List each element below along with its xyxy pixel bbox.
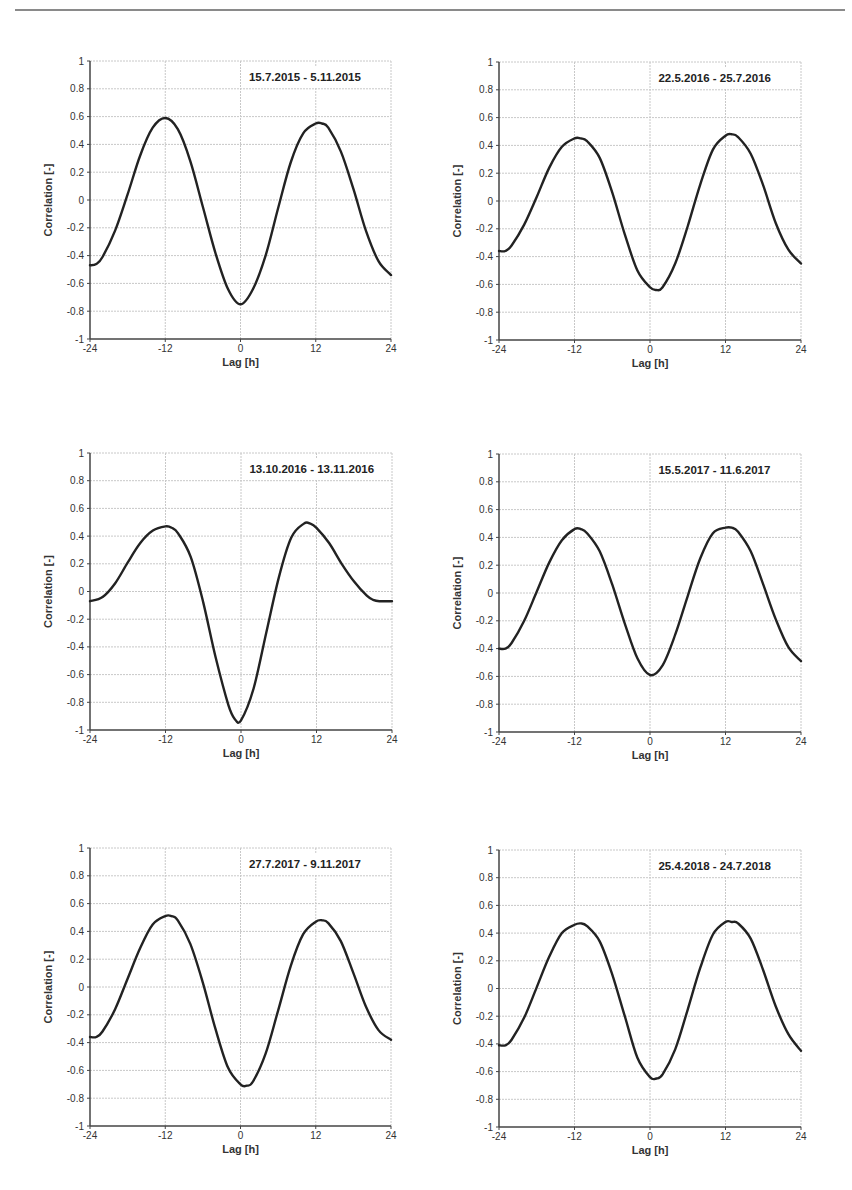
chart-panel-6: 10.80.60.40.20-0.2-0.4-0.6-0.8-1-24-1201… <box>451 845 807 1157</box>
chart-title: 15.7.2015 - 5.11.2015 <box>249 71 362 83</box>
figure-canvas: 10.80.60.40.20-0.2-0.4-0.6-0.8-1-24-1201… <box>0 0 852 1190</box>
y-axis-label: Correlation [-] <box>451 952 463 1025</box>
chart-panel-5: 10.80.60.40.20-0.2-0.4-0.6-0.8-1-24-1201… <box>42 843 397 1156</box>
chart-title: 13.10.2016 - 13.11.2016 <box>249 463 374 475</box>
y-tick-label: 0.2 <box>479 955 493 966</box>
x-tick-label: 24 <box>795 1131 807 1142</box>
y-tick-label: -0.6 <box>67 278 85 289</box>
chart-title: 25.4.2018 - 24.7.2018 <box>658 860 771 872</box>
y-tick-label: 0.2 <box>70 558 84 569</box>
y-tick-label: 0.4 <box>479 140 493 151</box>
x-tick-label: 0 <box>238 1130 244 1141</box>
y-tick-label: 0.2 <box>70 954 84 965</box>
y-tick-label: 0 <box>78 982 84 993</box>
x-tick-label: 0 <box>238 734 244 745</box>
gridlines <box>90 61 391 339</box>
x-tick-label: 24 <box>386 734 398 745</box>
y-tick-label: -0.6 <box>476 1066 494 1077</box>
x-axis-label: Lag [h] <box>632 357 669 369</box>
x-tick-label: 12 <box>311 734 323 745</box>
y-tick-label: 0.4 <box>70 139 84 150</box>
x-tick-label: -24 <box>492 344 507 355</box>
x-tick-label: 24 <box>385 343 397 354</box>
y-tick-label: -0.2 <box>67 222 85 233</box>
y-tick-label: 0.6 <box>70 503 84 514</box>
y-tick-label: 0 <box>487 196 493 207</box>
x-tick-label: 12 <box>310 1130 322 1141</box>
y-tick-label: 0.8 <box>479 476 493 487</box>
y-tick-label: 0.6 <box>479 112 493 123</box>
y-tick-label: 0.8 <box>479 872 493 883</box>
y-tick-label: 0.2 <box>70 167 84 178</box>
y-tick-label: -0.8 <box>476 1094 494 1105</box>
y-tick-label: 0 <box>78 195 84 206</box>
y-tick-label: 1 <box>487 449 493 460</box>
y-axis-label: Correlation [-] <box>451 164 463 237</box>
x-tick-label: 0 <box>647 736 653 747</box>
x-tick-label: -24 <box>492 1131 507 1142</box>
y-tick-label: 0.2 <box>479 560 493 571</box>
y-tick-label: -0.4 <box>67 1037 85 1048</box>
y-tick-label: -0.8 <box>476 699 494 710</box>
y-axis-label: Correlation [-] <box>42 950 54 1023</box>
y-axis-label: Correlation [-] <box>42 163 54 236</box>
chart-panel-1: 10.80.60.40.20-0.2-0.4-0.6-0.8-1-24-1201… <box>42 56 397 369</box>
x-axis-label: Lag [h] <box>222 356 259 368</box>
x-tick-label: -12 <box>158 343 173 354</box>
y-tick-label: -0.6 <box>476 279 494 290</box>
y-tick-label: 0.6 <box>479 900 493 911</box>
x-tick-label: -12 <box>158 1130 173 1141</box>
gridlines <box>90 453 392 730</box>
y-axis-label: Correlation [-] <box>451 556 463 629</box>
x-tick-label: 0 <box>647 344 653 355</box>
correlation-curve <box>90 915 391 1086</box>
y-tick-label: 0.2 <box>479 168 493 179</box>
y-tick-label: -0.2 <box>67 614 85 625</box>
x-tick-label: -24 <box>492 736 507 747</box>
x-tick-label: 12 <box>720 344 732 355</box>
y-tick-label: 0.4 <box>479 532 493 543</box>
y-tick-label: 0.6 <box>70 111 84 122</box>
y-tick-label: -0.8 <box>67 306 85 317</box>
x-tick-label: -24 <box>83 734 98 745</box>
chart-panel-3: 10.80.60.40.20-0.2-0.4-0.6-0.8-1-24-1201… <box>42 448 398 760</box>
x-tick-label: 0 <box>238 343 244 354</box>
y-tick-label: -0.2 <box>476 615 494 626</box>
y-tick-label: 0.8 <box>70 870 84 881</box>
y-tick-label: 0.4 <box>479 928 493 939</box>
x-tick-label: 24 <box>385 1130 397 1141</box>
gridlines <box>499 62 801 340</box>
x-axis-label: Lag [h] <box>632 1144 669 1156</box>
x-tick-label: 12 <box>720 736 732 747</box>
y-tick-label: 0.6 <box>479 504 493 515</box>
x-axis-label: Lag [h] <box>223 747 260 759</box>
x-tick-label: 12 <box>310 343 322 354</box>
x-tick-label: -12 <box>567 344 582 355</box>
y-tick-label: 0.8 <box>479 84 493 95</box>
y-tick-label: 0.8 <box>70 475 84 486</box>
y-tick-label: -0.4 <box>476 643 494 654</box>
chart-title: 15.5.2017 - 11.6.2017 <box>658 464 770 476</box>
y-tick-label: 0.8 <box>70 83 84 94</box>
chart-panel-2: 10.80.60.40.20-0.2-0.4-0.6-0.8-1-24-1201… <box>451 57 807 370</box>
y-tick-label: -0.8 <box>476 307 494 318</box>
x-tick-label: 24 <box>795 344 807 355</box>
y-tick-label: -0.8 <box>67 1093 85 1104</box>
x-tick-label: -12 <box>567 736 582 747</box>
y-tick-label: 0 <box>487 588 493 599</box>
y-tick-label: -0.6 <box>67 1065 85 1076</box>
y-tick-label: 1 <box>78 56 84 67</box>
y-tick-label: 1 <box>487 845 493 856</box>
y-axis-label: Correlation [-] <box>42 555 54 628</box>
chart-title: 27.7.2017 - 9.11.2017 <box>249 858 361 870</box>
x-tick-label: 12 <box>720 1131 732 1142</box>
y-tick-label: -0.6 <box>476 671 494 682</box>
y-tick-label: -0.6 <box>67 669 85 680</box>
y-tick-label: -0.4 <box>476 251 494 262</box>
y-tick-label: 0 <box>78 586 84 597</box>
x-tick-label: -12 <box>158 734 173 745</box>
x-axis-label: Lag [h] <box>222 1143 259 1155</box>
y-tick-label: -0.4 <box>67 250 85 261</box>
gridlines <box>499 850 801 1127</box>
y-tick-label: -0.4 <box>476 1038 494 1049</box>
